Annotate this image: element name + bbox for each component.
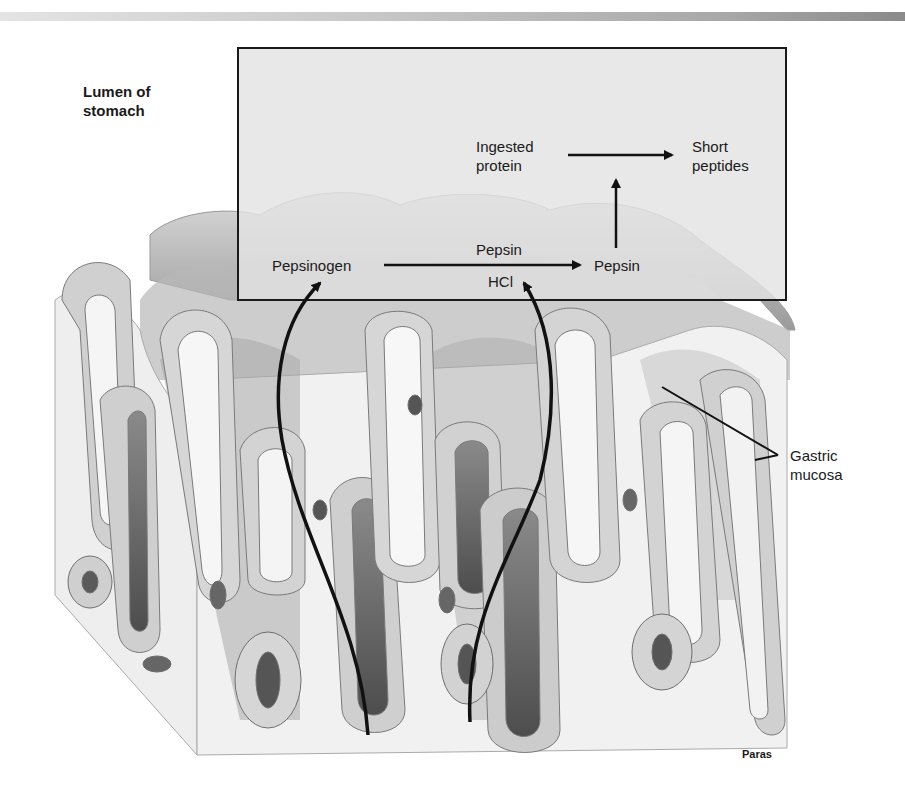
artist-credit: Paras: [742, 745, 772, 764]
pepsin-catalyst-label: Pepsin: [476, 240, 522, 259]
gastric-mucosa-label: Gastric mucosa: [790, 446, 843, 484]
short-peptides-label: Short peptides: [692, 137, 749, 175]
hcl-label: HCl: [488, 272, 513, 291]
pepsin-product-label: Pepsin: [594, 256, 640, 275]
pepsinogen-label: Pepsinogen: [272, 256, 351, 275]
lumen-label: Lumen of stomach: [83, 82, 151, 120]
ingested-protein-label: Ingested protein: [476, 137, 534, 175]
